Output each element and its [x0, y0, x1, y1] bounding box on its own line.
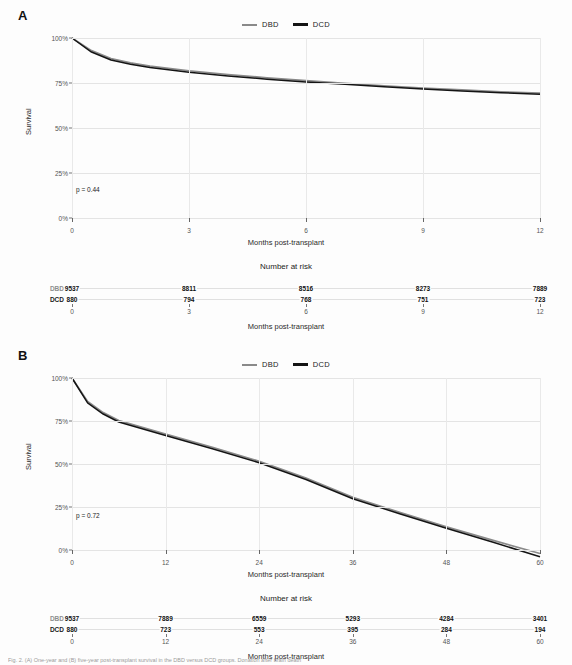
x-tick-mark [72, 550, 73, 554]
y-tick-label: 75% [55, 418, 68, 425]
risk-cells: 953778896559529342843401 [72, 612, 540, 623]
risk-cell: 4284 [438, 614, 454, 621]
risk-axis-tick-label: 24 [256, 638, 263, 645]
risk-row: DCD880723553395284194 [0, 623, 572, 634]
panel-a: A DBD DCD Survival 0%25%50%75%100%036912… [0, 0, 572, 340]
risk-cell: 9537 [64, 284, 80, 291]
panel-a-risk-table: DBD95378811851682737889DCD88079476875172… [0, 282, 572, 328]
y-gridline [72, 464, 540, 465]
y-tick-label: 50% [55, 125, 68, 132]
risk-cell: 794 [183, 295, 196, 302]
x-gridline [189, 38, 190, 218]
risk-axis-tick-mark [189, 304, 190, 307]
risk-axis-tick-label: 3 [187, 308, 191, 315]
panel-a-canvas: 0%25%50%75%100%036912 [72, 38, 540, 218]
x-tick-mark [540, 218, 541, 222]
risk-cells: 880794768751723 [72, 293, 540, 304]
x-tick-label: 12 [162, 559, 169, 566]
risk-cell: 768 [300, 295, 313, 302]
x-gridline [72, 378, 73, 550]
legend-label-dcd: DCD [313, 20, 330, 29]
legend-line-dbd-icon [242, 364, 257, 366]
y-tick-label: 50% [55, 461, 68, 468]
risk-axis: 01224364860 [0, 634, 572, 650]
risk-cell: 7889 [157, 614, 173, 621]
x-tick-mark [166, 550, 167, 554]
risk-axis-tick-label: 48 [443, 638, 450, 645]
risk-axis-tick-label: 12 [536, 308, 543, 315]
x-gridline [540, 378, 541, 550]
risk-cell: 395 [346, 625, 359, 632]
x-tick-label: 0 [70, 559, 74, 566]
risk-cell: 5293 [345, 614, 361, 621]
risk-cell: 723 [534, 295, 547, 302]
risk-cells: 880723553395284194 [72, 623, 540, 634]
risk-cell: 553 [253, 625, 266, 632]
risk-cell: 8516 [298, 284, 314, 291]
risk-axis-tick-mark [72, 634, 73, 637]
risk-axis-inner: 036912 [72, 304, 540, 320]
risk-axis-tick-mark [259, 634, 260, 637]
x-tick-mark [306, 218, 307, 222]
risk-axis-tick-mark [72, 304, 73, 307]
x-tick-label: 0 [70, 227, 74, 234]
panel-a-x-axis-title: Months post-transplant [0, 238, 572, 247]
panel-b-risk-title: Number at risk [0, 594, 572, 603]
risk-cell: 8811 [181, 284, 197, 291]
x-tick-label: 3 [187, 227, 191, 234]
survival-line-dcd [72, 378, 540, 557]
risk-x-axis-title: Months post-transplant [0, 322, 572, 331]
panel-b-x-axis-title: Months post-transplant [0, 570, 572, 579]
risk-cell: 880 [66, 625, 79, 632]
x-tick-mark [353, 550, 354, 554]
risk-cell: 751 [417, 295, 430, 302]
risk-cells: 95378811851682737889 [72, 282, 540, 293]
x-tick-mark [189, 218, 190, 222]
risk-axis-tick-mark [353, 634, 354, 637]
x-gridline [306, 38, 307, 218]
risk-axis-tick-label: 6 [304, 308, 308, 315]
x-tick-label: 6 [304, 227, 308, 234]
legend-entry-dcd: DCD [293, 20, 330, 29]
panel-a-p-value: p = 0.44 [76, 186, 100, 193]
risk-row-label-dbd: DBD [30, 284, 64, 291]
risk-row: DBD95378811851682737889 [0, 282, 572, 293]
x-gridline [166, 378, 167, 550]
legend-entry-dbd: DBD [242, 20, 279, 29]
risk-axis-tick-label: 60 [536, 638, 543, 645]
figure-caption: Fig. 2. (A) One-year and (B) five-year p… [8, 657, 568, 663]
legend-label-dbd: DBD [262, 20, 279, 29]
y-gridline [72, 550, 540, 551]
risk-axis-tick-mark [446, 634, 447, 637]
x-tick-label: 60 [536, 559, 543, 566]
x-tick-label: 9 [421, 227, 425, 234]
y-gridline [72, 507, 540, 508]
x-gridline [353, 378, 354, 550]
risk-axis-tick-mark [166, 634, 167, 637]
y-tick-label: 0% [59, 547, 68, 554]
risk-cell: 194 [534, 625, 547, 632]
survival-figure: A DBD DCD Survival 0%25%50%75%100%036912… [0, 0, 572, 665]
panel-b-y-axis-title: Survival [24, 443, 33, 470]
x-tick-mark [72, 218, 73, 222]
risk-cell: 6559 [251, 614, 267, 621]
y-gridline [72, 421, 540, 422]
panel-b: B DBD DCD 0%25%50%75%100%01224364860 [0, 340, 572, 650]
risk-axis-inner: 01224364860 [72, 634, 540, 650]
panel-a-risk-title: Number at risk [0, 262, 572, 271]
risk-axis-tick-mark [423, 304, 424, 307]
y-tick-label: 100% [51, 35, 68, 42]
risk-axis-tick-label: 0 [70, 308, 74, 315]
panel-b-risk-table: DBD953778896559529342843401DCD8807235533… [0, 612, 572, 658]
panel-b-legend: DBD DCD [0, 360, 572, 369]
x-tick-mark [259, 550, 260, 554]
risk-axis-tick-mark [540, 634, 541, 637]
y-tick-label: 25% [55, 170, 68, 177]
survival-line-dbd [72, 378, 540, 554]
y-tick-label: 100% [51, 375, 68, 382]
panel-a-legend: DBD DCD [0, 20, 572, 29]
x-tick-label: 48 [443, 559, 450, 566]
risk-axis-tick-label: 36 [349, 638, 356, 645]
y-tick-label: 75% [55, 80, 68, 87]
risk-row-label-dcd: DCD [30, 295, 64, 302]
